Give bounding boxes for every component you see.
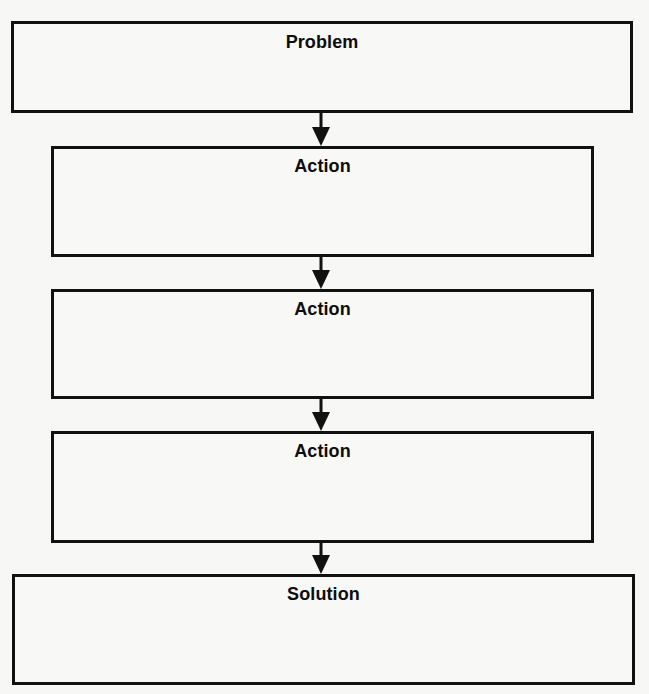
solution-box: Solution	[12, 574, 635, 685]
action-body-3[interactable]	[64, 470, 581, 532]
action-box-2: Action	[51, 289, 594, 399]
action-title-1: Action	[54, 156, 591, 177]
action-body-2[interactable]	[64, 328, 581, 388]
action-body-1[interactable]	[64, 185, 581, 246]
arrow-down-icon	[311, 542, 331, 575]
action-title-2: Action	[54, 299, 591, 320]
action-title-3: Action	[54, 441, 591, 462]
arrow-down-icon	[311, 256, 331, 290]
solution-body[interactable]	[25, 613, 622, 674]
problem-title: Problem	[14, 32, 630, 53]
problem-box: Problem	[11, 21, 633, 113]
arrow-down-icon	[311, 113, 331, 147]
solution-title: Solution	[15, 584, 632, 605]
action-box-3: Action	[51, 431, 594, 543]
arrow-down-icon	[311, 398, 331, 432]
action-box-1: Action	[51, 146, 594, 257]
problem-body[interactable]	[24, 60, 620, 102]
